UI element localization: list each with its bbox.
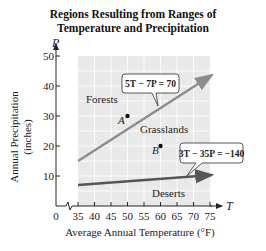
x-axis-variable: T bbox=[226, 199, 234, 213]
region-deserts: Deserts bbox=[152, 187, 185, 199]
point-b bbox=[158, 144, 162, 148]
point-a bbox=[125, 114, 129, 118]
svg-text:75: 75 bbox=[205, 210, 217, 222]
region-forests: Forests bbox=[86, 93, 118, 105]
svg-text:55: 55 bbox=[139, 210, 151, 222]
svg-text:60: 60 bbox=[155, 210, 167, 222]
svg-text:30: 30 bbox=[43, 110, 55, 122]
svg-text:65: 65 bbox=[172, 210, 184, 222]
region-grasslands: Grasslands bbox=[140, 123, 188, 135]
chart-svg: P 50 40 30 20 10 T 0 35 40 45 50 55 60 6… bbox=[0, 0, 266, 251]
svg-text:70: 70 bbox=[188, 210, 200, 222]
y-axis-variable: P bbox=[51, 36, 60, 50]
point-b-label: B bbox=[152, 144, 159, 156]
svg-text:20: 20 bbox=[43, 140, 55, 152]
svg-text:35: 35 bbox=[73, 210, 85, 222]
eq1-label: 5T − 7P = 70 bbox=[125, 79, 176, 89]
x-ticks: 0 35 40 45 50 55 60 65 70 75 bbox=[53, 210, 216, 222]
svg-text:50: 50 bbox=[43, 50, 55, 62]
svg-text:40: 40 bbox=[43, 80, 55, 92]
svg-text:10: 10 bbox=[43, 170, 55, 182]
svg-text:40: 40 bbox=[89, 210, 101, 222]
svg-text:50: 50 bbox=[122, 210, 134, 222]
eq2-label: 3T − 35P = −140 bbox=[179, 149, 245, 159]
svg-text:45: 45 bbox=[106, 210, 118, 222]
point-a-label: A bbox=[117, 114, 125, 126]
svg-text:0: 0 bbox=[53, 210, 59, 222]
y-ticks: 50 40 30 20 10 bbox=[43, 50, 55, 182]
